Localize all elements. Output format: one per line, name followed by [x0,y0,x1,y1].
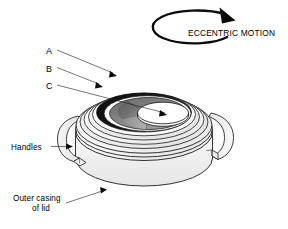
callout-label-b: B [46,64,52,74]
handles-label: Handles [11,143,42,152]
eccentric-lid-diagram: ECCENTRIC MOTION A B C Handles Outer cas… [0,0,288,229]
eccentric-motion-label: ECCENTRIC MOTION [188,28,275,38]
diagram-canvas: ECCENTRIC MOTION A B C Handles Outer cas… [0,0,288,229]
outer-casing-leader [66,187,107,203]
outer-casing-label-line1: Outer casing [13,194,61,203]
outer-casing-label-line2: of lid [32,204,50,213]
callout-label-c: C [46,81,53,91]
callout-arrow-b [95,82,103,89]
callout-arrow-a [109,71,117,78]
callout-label-a: A [46,46,52,56]
